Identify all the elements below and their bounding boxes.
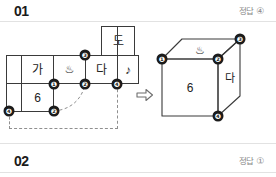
problem-02-answer-label: 정답	[239, 157, 255, 166]
net-vertex-3: ❸	[80, 50, 91, 61]
cube-vertex-3-label: ❸	[237, 35, 243, 43]
problem-01-answer: 정답 ④	[239, 7, 264, 16]
problem-02-number: 02	[14, 154, 29, 168]
cube-net-figure: 도 가 ♨ 다 ♪ 6	[0, 22, 140, 136]
net-vertex-2-bottom-label: ❷	[51, 107, 57, 115]
problem-01-number: 01	[14, 4, 29, 18]
cube-vertex-2-label: ❷	[215, 55, 221, 63]
net-vertex-4-bottom: ❹	[4, 106, 15, 117]
cube-vertex-2: ❷	[213, 54, 224, 65]
cube-wireframe	[152, 26, 268, 130]
net-vertex-3-label: ❸	[82, 51, 88, 59]
problem-02-divider	[0, 143, 276, 144]
net-vertex-2-top-label: ❷	[82, 80, 88, 88]
cube-top-face-onsen-icon: ♨	[195, 45, 205, 56]
net-vertex-2-bottom: ❷	[49, 106, 60, 117]
cube-right-face-label: 다	[225, 73, 235, 84]
net-vertex-1-label: ❶	[51, 80, 57, 88]
worksheet-page: 01 정답 ④ 도 가 ♨ 다 ♪ 6	[0, 0, 276, 177]
cube-front-face-label: 6	[187, 82, 194, 94]
net-vertex-4-bottom-label: ❹	[6, 107, 12, 115]
problem-02-header: 02 정답 ①	[0, 150, 276, 172]
problem-01-answer-value: ④	[256, 7, 264, 16]
net-vertex-4-top: ❹	[112, 79, 123, 90]
cube-vertex-1-label: ❶	[159, 55, 165, 63]
cube-vertex-3: ❸	[235, 34, 246, 45]
problem-01-answer-label: 정답	[239, 7, 255, 16]
problem-02-answer: 정답 ①	[239, 157, 264, 166]
problem-01-header: 01 정답 ④	[0, 0, 276, 22]
cube-vertex-4-label: ❹	[215, 112, 221, 120]
cube-vertex-4: ❹	[213, 111, 224, 122]
problem-02-bottom-divider	[0, 172, 276, 173]
folded-cube-figure: 6 ♨ 다 ❶ ❷ ❸ ❹	[152, 26, 268, 130]
net-vertex-1: ❶	[49, 79, 60, 90]
net-vertex-4-top-label: ❹	[114, 80, 120, 88]
cube-vertex-1: ❶	[157, 54, 168, 65]
net-vertex-2-top: ❷	[80, 79, 91, 90]
problem-02-answer-value: ①	[256, 157, 264, 166]
